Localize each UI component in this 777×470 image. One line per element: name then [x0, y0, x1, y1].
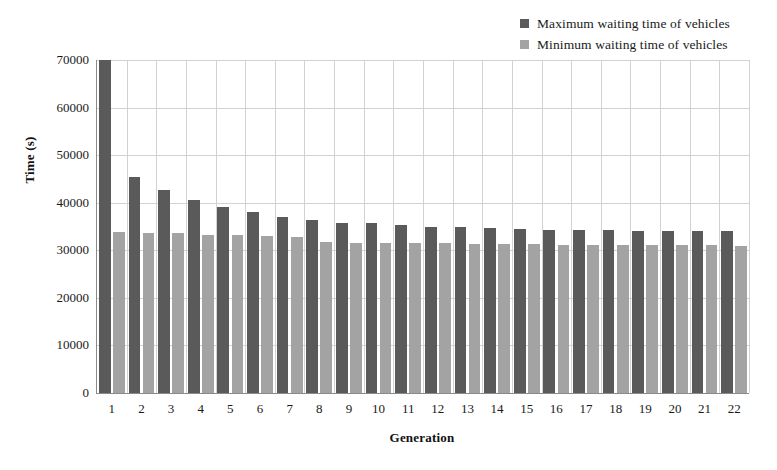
- bar-group: 6: [247, 60, 273, 393]
- x-gridline: [304, 60, 305, 393]
- bar-minimum: [113, 232, 125, 393]
- bar-group: 1: [99, 60, 125, 393]
- bar-maximum: [306, 220, 318, 393]
- legend-label-maximum: Maximum waiting time of vehicles: [537, 16, 730, 32]
- bar-group: 16: [543, 60, 569, 393]
- x-gridline: [749, 60, 750, 393]
- legend-label-minimum: Minimum waiting time of vehicles: [537, 37, 728, 53]
- bar-group: 15: [514, 60, 540, 393]
- bar-group: 4: [188, 60, 214, 393]
- x-axis-tick-label: 20: [662, 401, 688, 417]
- bar-minimum: [261, 236, 273, 393]
- bar-minimum: [439, 243, 451, 393]
- y-axis-tick-label: 70000: [17, 52, 89, 68]
- legend-item-maximum: Maximum waiting time of vehicles: [520, 14, 770, 33]
- bar-minimum: [676, 245, 688, 393]
- x-gridline: [482, 60, 483, 393]
- bar-group: 22: [721, 60, 747, 393]
- bar-group: 13: [455, 60, 481, 393]
- y-axis-tick-label: 0: [17, 385, 89, 401]
- x-gridline: [156, 60, 157, 393]
- bar-maximum: [632, 231, 644, 393]
- bar-group: 14: [484, 60, 510, 393]
- x-axis-tick-label: 4: [188, 401, 214, 417]
- bar-minimum: [558, 245, 570, 393]
- bar-minimum: [469, 244, 481, 393]
- y-axis-tick-label: 40000: [17, 195, 89, 211]
- x-axis-tick-label: 17: [573, 401, 599, 417]
- x-gridline: [453, 60, 454, 393]
- x-axis-tick-label: 9: [336, 401, 362, 417]
- bar-maximum: [277, 217, 289, 393]
- bar-chart-figure: Maximum waiting time of vehicles Minimum…: [0, 0, 777, 470]
- bar-maximum: [336, 223, 348, 393]
- x-gridline: [542, 60, 543, 393]
- bar-group: 3: [158, 60, 184, 393]
- bar-minimum: [617, 245, 629, 393]
- bar-maximum: [425, 227, 437, 394]
- x-axis-tick-label: 13: [455, 401, 481, 417]
- y-axis-tick-label: 60000: [17, 100, 89, 116]
- x-axis-tick-label: 7: [277, 401, 303, 417]
- chart-legend: Maximum waiting time of vehicles Minimum…: [520, 14, 770, 56]
- y-axis-tick-label: 10000: [17, 337, 89, 353]
- x-gridline: [690, 60, 691, 393]
- bar-maximum: [395, 225, 407, 393]
- x-axis-tick-label: 22: [721, 401, 747, 417]
- bar-maximum: [129, 177, 141, 393]
- bar-group: 18: [603, 60, 629, 393]
- x-axis-tick-label: 6: [247, 401, 273, 417]
- plot-area: 0100002000030000400005000060000700001234…: [96, 60, 749, 394]
- x-gridline: [571, 60, 572, 393]
- bar-maximum: [217, 207, 229, 393]
- bar-group: 11: [395, 60, 421, 393]
- bar-group: 20: [662, 60, 688, 393]
- bar-maximum: [366, 223, 378, 393]
- x-gridline: [393, 60, 394, 393]
- bar-minimum: [528, 244, 540, 393]
- bar-maximum: [543, 230, 555, 393]
- bar-group: 8: [306, 60, 332, 393]
- bar-maximum: [514, 229, 526, 393]
- bar-maximum: [692, 231, 704, 393]
- bar-maximum: [247, 212, 259, 393]
- x-gridline: [245, 60, 246, 393]
- bar-maximum: [188, 200, 200, 393]
- bar-group: 12: [425, 60, 451, 393]
- x-axis-tick-label: 14: [484, 401, 510, 417]
- bar-minimum: [587, 245, 599, 393]
- bar-maximum: [603, 230, 615, 393]
- bar-maximum: [662, 231, 674, 393]
- bar-minimum: [232, 235, 244, 393]
- x-gridline: [660, 60, 661, 393]
- x-axis-tick-label: 1: [99, 401, 125, 417]
- x-axis-tick-label: 19: [632, 401, 658, 417]
- bar-minimum: [380, 243, 392, 393]
- x-gridline: [719, 60, 720, 393]
- bar-group: 19: [632, 60, 658, 393]
- bar-group: 17: [573, 60, 599, 393]
- x-gridline: [186, 60, 187, 393]
- x-axis-tick-label: 15: [514, 401, 540, 417]
- x-axis-title: Generation: [96, 430, 748, 446]
- x-gridline: [127, 60, 128, 393]
- legend-item-minimum: Minimum waiting time of vehicles: [520, 35, 770, 54]
- x-axis-tick-label: 11: [395, 401, 421, 417]
- bar-maximum: [99, 60, 111, 393]
- bar-minimum: [172, 233, 184, 393]
- x-gridline: [423, 60, 424, 393]
- bar-minimum: [291, 237, 303, 394]
- legend-swatch-minimum-icon: [520, 40, 529, 49]
- y-axis-tick-label: 20000: [17, 290, 89, 306]
- y-axis-tick-label: 30000: [17, 242, 89, 258]
- legend-swatch-maximum-icon: [520, 19, 529, 28]
- bar-minimum: [646, 245, 658, 393]
- bar-maximum: [158, 190, 170, 393]
- bar-group: 5: [217, 60, 243, 393]
- bar-minimum: [320, 242, 332, 393]
- x-axis-tick-label: 16: [543, 401, 569, 417]
- bar-minimum: [143, 233, 155, 393]
- bar-group: 9: [336, 60, 362, 393]
- x-axis-tick-label: 12: [425, 401, 451, 417]
- bar-minimum: [202, 235, 214, 393]
